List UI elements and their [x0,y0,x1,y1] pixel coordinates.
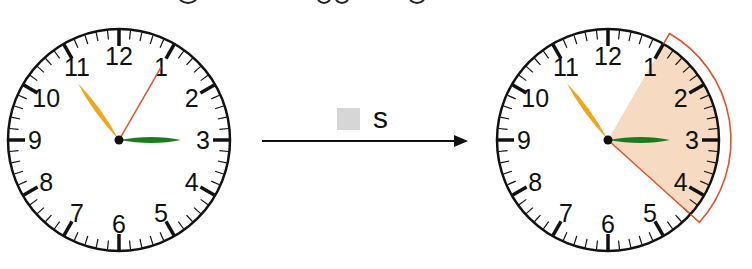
caption-descenders [0,0,752,6]
unit-label: s [373,100,388,136]
clock-number: 11 [64,53,90,81]
clock-end: 121234567891011 [488,20,752,269]
clock-number: 4 [185,168,199,196]
clock-number: 6 [601,210,615,238]
center-pin [115,136,124,145]
clock-number: 9 [28,126,42,154]
clock-number: 11 [553,53,579,81]
clock-number: 12 [594,42,622,70]
clock-number: 2 [185,84,199,112]
clock-number: 7 [559,199,573,227]
clock-number: 3 [685,126,699,154]
cropped-caption [0,0,752,6]
answer-blank-box [337,108,360,130]
clock-number: 5 [154,199,168,227]
clock-number: 10 [521,84,549,112]
right-arrow-icon [258,131,478,151]
clock-number: 8 [39,168,53,196]
clock-diagram: 121234567891011 s 121234567891011 [0,0,752,269]
clock-number: 12 [105,42,133,70]
clock-number: 4 [674,168,688,196]
clock-number: 2 [674,84,688,112]
clock-number: 1 [643,53,657,81]
center-pin [604,136,613,145]
clock-number: 5 [643,199,657,227]
clock-number: 6 [112,210,126,238]
clock-number: 8 [528,168,542,196]
clock-start: 121234567891011 [0,20,239,260]
clock-number: 9 [517,126,531,154]
clock-number: 7 [70,199,84,227]
clock-number: 3 [196,126,210,154]
clock-number: 10 [32,84,60,112]
